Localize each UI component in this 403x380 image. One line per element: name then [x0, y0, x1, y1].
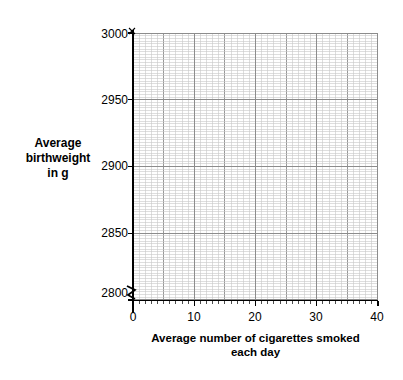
data-series-layer [133, 33, 378, 300]
x-axis-title-line-1: Average number of cigarettes smoked [113, 331, 398, 345]
x-axis-title-line-2: each day [113, 345, 398, 359]
y-tick-label-2950: 2950 [84, 94, 128, 106]
y-tick-label-2900: 2900 [84, 160, 128, 172]
y-tick-label-2800: 2800 [84, 287, 128, 299]
y-axis-title: Average birthweight in g [4, 136, 112, 181]
x-tick-label-30: 30 [301, 311, 331, 323]
x-tick-label-0: 0 [118, 311, 148, 323]
x-tick-label-40: 40 [362, 311, 392, 323]
y-tick-label-3000: 3000 [84, 28, 128, 40]
x-axis-title: Average number of cigarettes smoked each… [113, 331, 398, 359]
plot-area [133, 33, 378, 300]
y-axis-title-line-1: Average [4, 136, 112, 151]
x-tick-label-10: 10 [179, 311, 209, 323]
chart-figure: Average birthweight in g 3000 2950 2900 … [0, 0, 403, 380]
y-tick-label-2850: 2850 [84, 227, 128, 239]
x-tick-label-20: 20 [240, 311, 270, 323]
